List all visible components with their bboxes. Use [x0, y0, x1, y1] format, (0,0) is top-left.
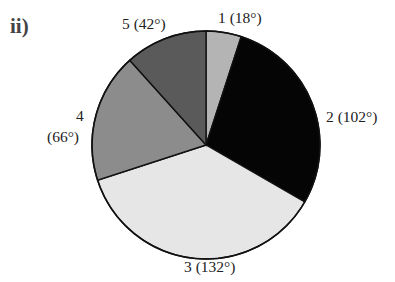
slice-label-4-number: 4 — [76, 107, 84, 125]
slice-label-5: 5 (42°) — [122, 15, 166, 33]
slice-label-3: 3 (132°) — [184, 258, 235, 276]
pie-slices — [92, 31, 320, 259]
slice-label-1: 1 (18°) — [218, 9, 262, 27]
slice-label-4-degrees: (66°) — [47, 128, 79, 146]
slice-label-2: 2 (102°) — [326, 108, 377, 126]
